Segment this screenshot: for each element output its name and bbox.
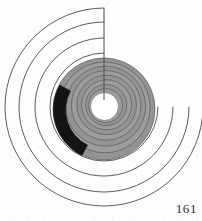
- book-page: 161: [0, 0, 202, 221]
- spiral-figure: [0, 0, 202, 221]
- page-number: 161: [176, 202, 197, 215]
